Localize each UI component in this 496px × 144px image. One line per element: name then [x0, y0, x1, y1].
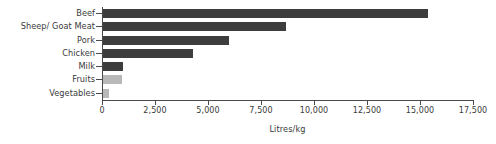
bar — [102, 62, 123, 71]
x-axis-title: Litres/kg — [102, 124, 473, 134]
y-axis-tick-label: Fruits — [72, 73, 95, 86]
y-axis-tick-label: Sheep/ Goat Meat — [21, 20, 95, 33]
y-axis-tick-label: Beef — [76, 7, 95, 20]
x-axis-tick-label: 10,000 — [300, 106, 329, 115]
x-axis-tick — [314, 101, 315, 105]
y-axis-tick — [96, 79, 102, 80]
y-axis-tick-label: Chicken — [62, 47, 95, 60]
y-axis-labels: BeefSheep/ Goat MeatPorkChickenMilkFruit… — [0, 7, 95, 100]
bar — [102, 49, 193, 58]
y-axis-tick — [96, 13, 102, 14]
y-axis-tick-label: Pork — [77, 34, 95, 47]
x-axis-line — [102, 100, 474, 101]
plot-area — [102, 7, 473, 100]
x-axis-tick — [208, 101, 209, 105]
y-axis-tick-label: Milk — [78, 60, 95, 73]
x-axis-tick — [473, 101, 474, 105]
x-axis-tick — [261, 101, 262, 105]
x-axis-tick-label: 15,000 — [406, 106, 435, 115]
x-axis-tick-label: 17,500 — [459, 106, 488, 115]
y-axis-tick — [96, 53, 102, 54]
x-axis-tick — [420, 101, 421, 105]
y-axis-tick — [96, 26, 102, 27]
bar — [102, 9, 428, 18]
x-axis-tick — [102, 101, 103, 105]
y-axis-line — [102, 7, 103, 101]
x-axis-tick — [367, 101, 368, 105]
bar — [102, 89, 109, 98]
bar-chart: BeefSheep/ Goat MeatPorkChickenMilkFruit… — [0, 0, 496, 144]
x-axis-tick-label: 5,000 — [196, 106, 219, 115]
x-axis-tick — [155, 101, 156, 105]
bar — [102, 36, 229, 45]
x-axis-tick-label: 0 — [99, 106, 104, 115]
y-axis-tick — [96, 66, 102, 67]
x-axis-tick-label: 2,500 — [143, 106, 166, 115]
x-axis-tick-label: 7,500 — [249, 106, 272, 115]
bar — [102, 75, 122, 84]
y-axis-tick — [96, 40, 102, 41]
y-axis-tick-label: Vegetables — [49, 87, 95, 100]
y-axis-tick — [96, 93, 102, 94]
x-axis-tick-label: 12,500 — [353, 106, 382, 115]
bar — [102, 22, 286, 31]
